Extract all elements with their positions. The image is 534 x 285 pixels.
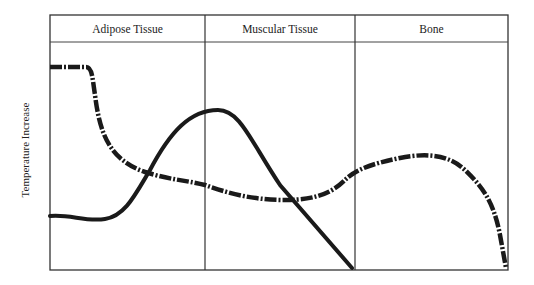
plot-frame: [50, 15, 508, 270]
dash-dot-curve: [50, 67, 506, 268]
solid-curve: [50, 110, 352, 268]
plot-area: [0, 0, 534, 285]
chart: Temperature Increase Adipose Tissue Musc…: [0, 0, 534, 285]
